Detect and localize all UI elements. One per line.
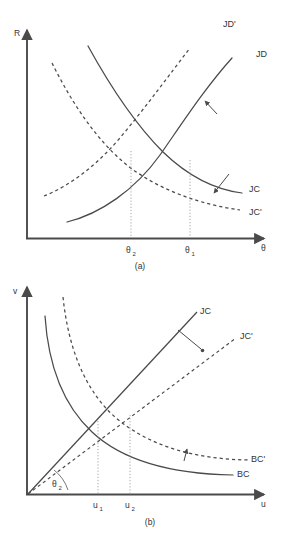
panel-b-rotation-dot [201,349,205,353]
panel-b-caption: (b) [145,517,156,527]
panel-a-tick-theta1-base: θ [185,245,190,255]
panel-b-tick-u2-base: u [125,500,130,510]
ray-jc [28,312,197,494]
panel-b-label-jc: JC [200,306,212,316]
panel-b-shift-arrow-bc [184,449,187,461]
panel-b-label-bc: BC [237,469,250,479]
panel-a-tick-theta2-base: θ [126,245,131,255]
panel-a-y-axis-label: R [14,28,20,38]
panel-a-x-axis-label: θ [261,243,266,253]
curve-jd-prime [44,48,190,196]
panel-a-tick-theta1: θ 1 [185,245,196,257]
panel-a-label-jc: JC [249,184,261,194]
panel-a-tick-theta1-sub: 1 [192,251,196,257]
panel-b-angle-label-sub: 2 [59,485,63,491]
figure-container: R θ JD' JD JC JC' θ 2 θ 1 (a) [0,0,291,534]
curve-jc-prime [52,63,240,210]
panel-b-tick-u1-base: u [93,500,98,510]
panel-a-tick-theta2-sub: 2 [133,251,137,257]
panel-a: R θ JD' JD JC JC' θ 2 θ 1 (a) [14,19,268,271]
panel-b-tick-u1-sub: 1 [100,506,104,512]
panel-b-tick-u1: u 1 [93,500,104,512]
panel-b-label-jc-prime: JC' [240,331,253,341]
panel-a-label-jc-prime: JC' [249,207,262,217]
panel-b-angle-label-base: θ [52,479,57,489]
panel-b-y-axis-label: v [13,286,18,296]
curve-bc-prime [63,297,248,460]
curve-bc [45,316,233,475]
curve-jd [67,58,232,222]
panel-b-label-bc-prime: BC' [251,454,266,464]
ray-jc-prime [28,338,236,494]
panel-b-tick-u2: u 2 [125,500,136,512]
panel-a-shift-arrow-jd [205,101,217,114]
panel-b-angle-label: θ 2 [52,479,63,491]
economics-diagram: R θ JD' JD JC JC' θ 2 θ 1 (a) [0,0,291,534]
panel-a-tick-theta2: θ 2 [126,245,137,257]
panel-b-x-axis-label: u [261,499,266,509]
panel-a-label-jd-prime: JD' [223,19,236,29]
panel-b-rotation-leader [178,330,201,349]
curve-jc [88,46,242,193]
panel-b-tick-u2-sub: 2 [132,506,136,512]
panel-b: v u JC JC' BC' BC θ 2 u 1 u 2 (b) [13,286,266,527]
panel-a-caption: (a) [135,261,146,271]
panel-a-label-jd: JD [256,49,268,59]
